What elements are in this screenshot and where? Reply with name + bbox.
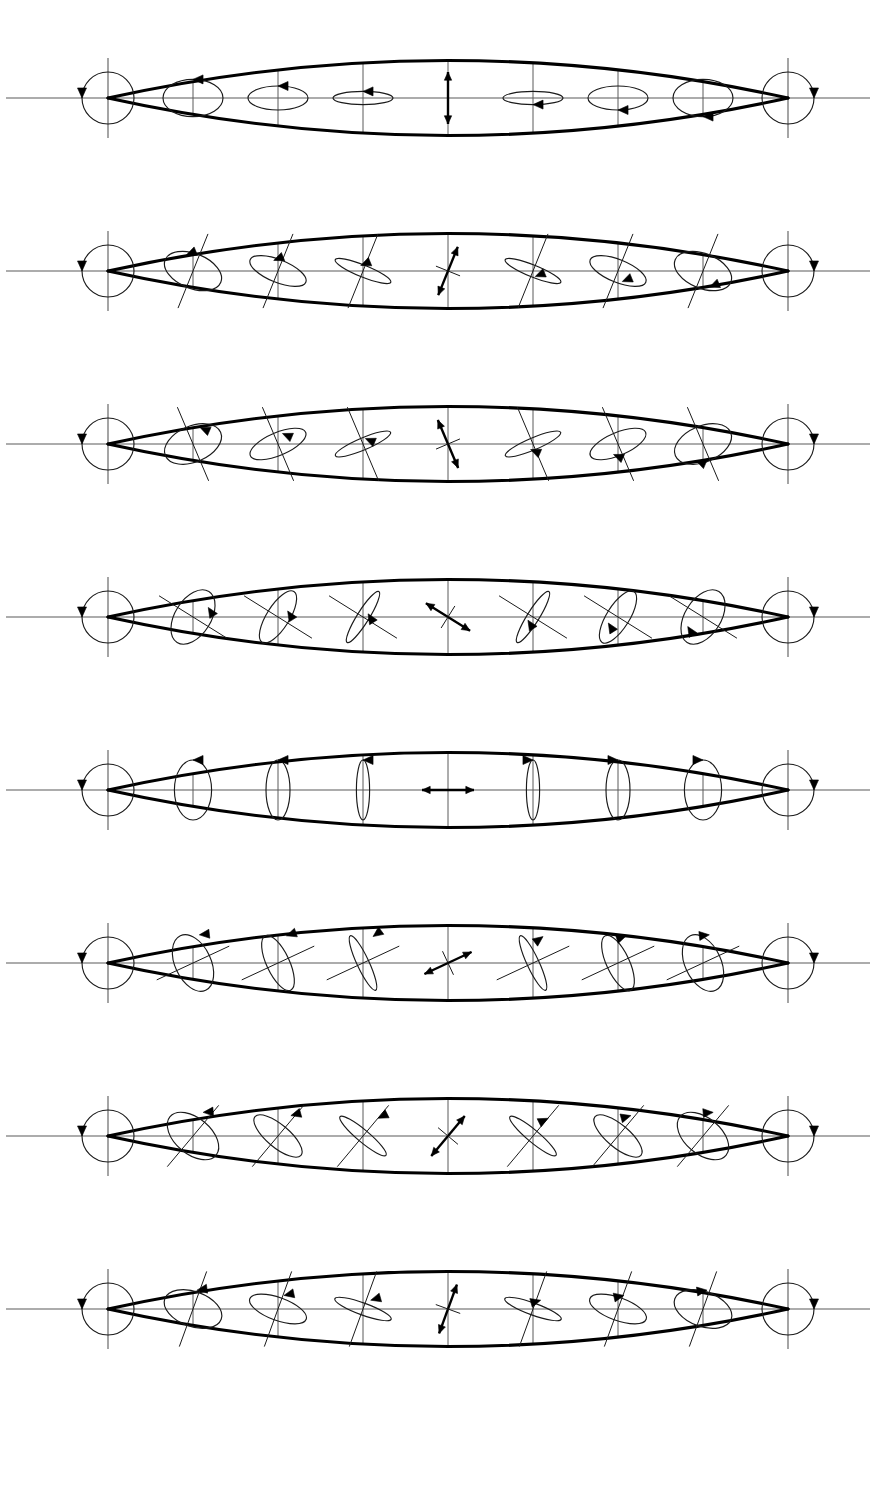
elliptical-polarization-symbol [356,756,373,820]
direction-arrowhead [78,434,87,444]
direction-arrowhead [703,1109,713,1118]
direction-arrowhead [444,72,451,80]
direction-arrowhead [608,623,617,634]
polarization-figure [0,12,876,1500]
direction-arrowhead [452,459,459,468]
elliptical-polarization-symbol [523,756,540,820]
direction-arrowhead [810,434,819,444]
direction-arrowhead [810,607,819,617]
direction-arrowhead [451,1285,458,1294]
direction-arrowhead [444,116,451,124]
direction-arrowhead [371,1293,382,1302]
direction-arrowhead [699,931,709,940]
direction-arrowhead [810,261,819,271]
direction-arrowhead [463,952,472,959]
direction-arrowhead [710,279,721,287]
direction-arrowhead [203,1107,213,1116]
direction-arrowhead [78,1299,87,1309]
direction-arrowhead [288,611,297,622]
polarization-row-5 [0,704,876,877]
direction-arrowhead [78,953,87,963]
row-container-7 [0,1050,876,1223]
polarization-row-1 [0,12,876,185]
direction-arrowhead [622,274,633,282]
direction-arrowhead [451,247,458,256]
direction-arrowhead [810,780,819,790]
direction-arrowhead [282,433,293,441]
direction-arrowhead [461,623,470,630]
direction-arrowhead [78,780,87,790]
direction-arrowhead [614,454,625,462]
direction-arrowhead [615,935,626,943]
direction-arrowhead [810,88,819,98]
direction-arrowhead [466,786,474,793]
row-container-5 [0,704,876,877]
direction-arrowhead [274,253,285,261]
direction-arrowhead [438,1324,445,1333]
direction-arrowhead [438,286,445,295]
direction-arrowhead [200,427,211,435]
direction-arrowhead [537,1118,548,1127]
direction-arrowhead [810,953,819,963]
row-container-3 [0,358,876,531]
direction-arrowhead [810,1126,819,1136]
direction-arrowhead [78,607,87,617]
direction-arrowhead [528,620,537,631]
row-container-4 [0,531,876,704]
direction-arrowhead [199,929,209,938]
row-container-1 [0,12,876,185]
row-container-6 [0,877,876,1050]
direction-arrowhead [284,1289,295,1298]
direction-arrowhead [618,106,628,115]
polarization-row-3 [0,358,876,531]
direction-arrowhead [186,247,197,255]
direction-arrowhead [438,420,445,429]
direction-arrowhead [530,1299,541,1308]
direction-arrowhead [278,82,288,91]
direction-arrowhead [533,100,543,109]
polarization-row-6 [0,877,876,1050]
direction-arrowhead [78,261,87,271]
direction-arrowhead [422,786,430,793]
row-container-8 [0,1223,876,1396]
direction-arrowhead [523,756,533,765]
direction-arrowhead [361,258,372,266]
row-container-2 [0,185,876,358]
direction-arrowhead [426,603,435,610]
direction-arrowhead [424,967,433,974]
direction-arrowhead [532,937,543,947]
polarization-row-8 [0,1223,876,1396]
direction-arrowhead [193,756,203,765]
polarization-row-2 [0,185,876,358]
direction-arrowhead [810,1299,819,1309]
direction-arrowhead [693,756,703,765]
polarization-row-7 [0,1050,876,1223]
direction-arrowhead [78,1126,87,1136]
direction-arrowhead [363,756,373,765]
direction-arrowhead [363,87,373,96]
direction-arrowhead [368,614,377,625]
direction-arrowhead [620,1114,631,1123]
direction-arrowhead [531,449,542,457]
polarization-row-4 [0,531,876,704]
direction-arrowhead [78,88,87,98]
